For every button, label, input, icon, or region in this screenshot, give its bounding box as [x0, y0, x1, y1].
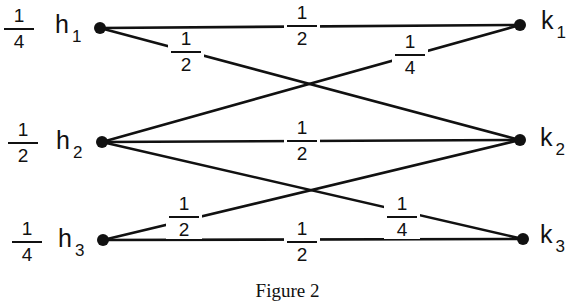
- label-h1: h1: [55, 12, 81, 40]
- fraction-bar: [387, 216, 417, 218]
- weight-denominator: 4: [14, 32, 25, 51]
- weight-h3: 1 4: [9, 219, 45, 264]
- figure-caption: Figure 2: [0, 280, 575, 302]
- node-letter: h: [55, 10, 69, 38]
- edge-weight-h1-k1: 1 2: [284, 3, 320, 48]
- edge-numerator: 1: [397, 194, 408, 213]
- node-subscript: 3: [556, 237, 565, 256]
- label-k3: k3: [540, 222, 565, 250]
- label-k1: k1: [541, 8, 566, 36]
- edge-denominator: 2: [181, 55, 192, 74]
- weight-h2: 1 2: [5, 120, 41, 165]
- edge-denominator: 2: [297, 29, 308, 48]
- node-dot-k1: [514, 19, 526, 31]
- node-subscript: 2: [556, 140, 565, 159]
- weight-denominator: 2: [18, 146, 29, 165]
- node-subscript: 3: [75, 241, 84, 260]
- weight-numerator: 1: [14, 6, 25, 25]
- node-letter: h: [56, 126, 70, 154]
- edge-numerator: 1: [179, 194, 190, 213]
- edge-denominator: 4: [397, 220, 408, 239]
- weight-numerator: 1: [18, 120, 29, 139]
- edge-numerator: 1: [297, 118, 308, 137]
- label-h2: h2: [56, 128, 82, 156]
- edge-denominator: 2: [297, 144, 308, 163]
- node-subscript: 1: [72, 27, 81, 46]
- node-dot-k3: [517, 233, 529, 245]
- node-dot-h2: [96, 136, 108, 148]
- edge-numerator: 1: [405, 32, 416, 51]
- node-dot-h1: [94, 22, 106, 34]
- weight-h1: 1 4: [1, 6, 37, 51]
- edge-weight-h3-k2: 1 2: [166, 194, 202, 239]
- fraction-bar: [287, 140, 317, 142]
- edge-weight-h2-k1: 1 4: [392, 32, 428, 77]
- fraction-bar: [8, 142, 38, 144]
- edge-denominator: 2: [179, 220, 190, 239]
- fraction-bar: [4, 28, 34, 30]
- edge-weight-h1-k2: 1 2: [168, 29, 204, 74]
- node-letter: k: [540, 123, 553, 151]
- fraction-bar: [171, 51, 201, 53]
- node-subscript: 2: [73, 143, 82, 162]
- edge-numerator: 1: [297, 3, 308, 22]
- node-dot-h3: [97, 234, 109, 246]
- edge-denominator: 2: [297, 245, 308, 264]
- edge-weight-h3-k3: 1 2: [284, 219, 320, 264]
- label-k2: k2: [540, 125, 565, 153]
- fraction-bar: [287, 241, 317, 243]
- node-subscript: 1: [557, 23, 566, 42]
- fraction-bar: [287, 25, 317, 27]
- fraction-bar: [12, 241, 42, 243]
- edge-denominator: 4: [405, 58, 416, 77]
- edge-weight-h2-k3: 1 4: [384, 194, 420, 239]
- weight-numerator: 1: [22, 219, 33, 238]
- node-letter: k: [541, 6, 554, 34]
- label-h3: h3: [58, 226, 84, 254]
- node-dot-k2: [514, 134, 526, 146]
- edge-numerator: 1: [297, 219, 308, 238]
- weight-denominator: 4: [22, 245, 33, 264]
- node-letter: k: [540, 220, 553, 248]
- fraction-bar: [169, 216, 199, 218]
- edge-weight-h2-k2: 1 2: [284, 118, 320, 163]
- fraction-bar: [395, 54, 425, 56]
- edge-numerator: 1: [181, 29, 192, 48]
- node-letter: h: [58, 224, 72, 252]
